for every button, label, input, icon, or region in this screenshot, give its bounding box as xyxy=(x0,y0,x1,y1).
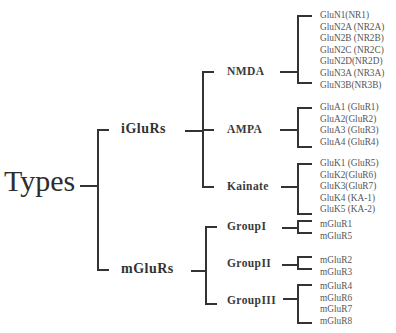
leaf: mGluR7 xyxy=(320,304,352,316)
tick xyxy=(297,213,312,215)
tick xyxy=(297,220,312,222)
leaf: GluK5 (KA-2) xyxy=(320,204,379,216)
connector-group3 xyxy=(205,303,217,305)
tick xyxy=(297,232,312,234)
connector-nmda-out xyxy=(280,71,298,73)
tick xyxy=(297,146,312,148)
tick xyxy=(297,268,312,270)
connector-igluRs xyxy=(97,129,109,131)
leaf: GluN2B (NR2B) xyxy=(320,33,384,45)
connector-iglurs-out xyxy=(185,130,203,132)
connector-group2-out xyxy=(282,264,298,266)
leaf-list-group2: mGluR2 mGluR3 xyxy=(320,255,352,278)
leaf: mGluR1 xyxy=(320,219,352,231)
leaf: GluK4 (KA-1) xyxy=(320,193,379,205)
tick xyxy=(297,82,312,84)
tick xyxy=(297,163,312,165)
leaf: GluA2(GluR2) xyxy=(320,114,379,126)
node-ampa: AMPA xyxy=(227,123,262,135)
connector-kainate xyxy=(202,186,214,188)
leaf-list-group3: mGluR4 mGluR6 mGluR7 mGluR8 xyxy=(320,281,352,327)
connector-mglurs xyxy=(97,269,109,271)
leaf: mGluR6 xyxy=(320,293,352,305)
leaf: mGluR2 xyxy=(320,255,352,267)
connector-kainate-out xyxy=(281,186,298,188)
bracket-mglurs xyxy=(205,226,207,304)
node-iglurs: iGluRs xyxy=(121,121,166,137)
connector-root xyxy=(80,185,98,187)
leaf: GluN3B(NR3B) xyxy=(320,80,384,92)
node-group2: GroupII xyxy=(227,257,271,269)
leaf-list-kainate: GluK1 (GluR5) GluK2(GluR6) GluK3(GluR7) … xyxy=(320,158,379,216)
node-mglurs: mGluRs xyxy=(121,261,174,277)
leaf: GluN2A (NR2A) xyxy=(320,22,384,34)
node-group1: GroupI xyxy=(227,220,266,232)
bracket-ampa xyxy=(297,107,299,148)
node-nmda: NMDA xyxy=(227,65,264,77)
bracket-group3 xyxy=(297,284,299,324)
leaf: GluN2D(NR2D) xyxy=(320,56,384,68)
connector-group1-out xyxy=(282,227,298,229)
tick xyxy=(297,15,312,17)
leaf: GluN3A (NR3A) xyxy=(320,68,384,80)
tick xyxy=(297,284,312,286)
tick xyxy=(297,322,312,324)
leaf: mGluR4 xyxy=(320,281,352,293)
leaf-list-ampa: GluA1 (GluR1) GluA2(GluR2) GluA3 (GluR3)… xyxy=(320,102,379,148)
leaf: GluK3(GluR7) xyxy=(320,181,379,193)
connector-group3-out xyxy=(283,298,298,300)
leaf: GluN2C (NR2C) xyxy=(320,45,384,57)
leaf: GluN1(NR1) xyxy=(320,10,384,22)
leaf: GluA1 (GluR1) xyxy=(320,102,379,114)
connector-nmda xyxy=(202,71,214,73)
connector-ampa-out xyxy=(280,129,298,131)
leaf: GluA3 (GluR3) xyxy=(320,125,379,137)
leaf: mGluR5 xyxy=(320,231,352,243)
bracket-kainate xyxy=(297,163,299,215)
leaf: GluA4 (GluR4) xyxy=(320,137,379,149)
connector-ampa xyxy=(202,129,214,131)
leaf: mGluR8 xyxy=(320,316,352,328)
leaf-list-nmda: GluN1(NR1) GluN2A (NR2A) GluN2B (NR2B) G… xyxy=(320,10,384,91)
leaf: GluK2(GluR6) xyxy=(320,170,379,182)
node-kainate: Kainate xyxy=(227,180,269,192)
tick xyxy=(297,107,312,109)
leaf: mGluR3 xyxy=(320,267,352,279)
root-label-types: Types xyxy=(4,164,75,198)
leaf: GluK1 (GluR5) xyxy=(320,158,379,170)
tick xyxy=(297,256,312,258)
bracket-nmda xyxy=(297,15,299,83)
node-group3: GroupIII xyxy=(227,294,276,306)
leaf-list-group1: mGluR1 mGluR5 xyxy=(320,219,352,242)
bracket-level1 xyxy=(97,129,99,271)
connector-group1 xyxy=(205,226,217,228)
